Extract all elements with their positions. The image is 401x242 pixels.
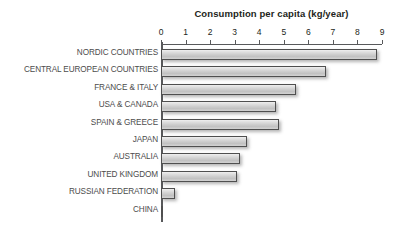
x-tick-label: 7 [326,27,340,37]
category-label: CHINA [0,205,158,214]
category-label: RUSSIAN FEDERATION [0,187,158,196]
x-tick-mark [357,40,358,44]
plot-area: 0123456789 [161,44,382,224]
category-axis-labels: NORDIC COUNTRIESCENTRAL EUROPEAN COUNTRI… [0,44,158,224]
bar[interactable] [161,171,237,182]
x-tick-mark [308,40,309,44]
bar-row[interactable] [161,82,382,99]
bar-row[interactable] [161,99,382,116]
bar[interactable] [161,66,326,77]
bar[interactable] [161,136,247,147]
x-tick-mark [382,40,383,44]
bar[interactable] [161,119,279,130]
x-tick-label: 5 [277,27,291,37]
bar-row[interactable] [161,64,382,81]
bar[interactable] [161,188,175,199]
bar-row[interactable] [161,186,382,203]
bar[interactable] [161,101,276,112]
chart-title: Consumption per capita (kg/year) [161,8,382,19]
x-axis-line [161,44,382,45]
x-tick-label: 8 [350,27,364,37]
category-label: SPAIN & GREECE [0,118,158,127]
x-tick-label: 2 [203,27,217,37]
x-tick-mark [161,40,162,44]
x-tick-label: 0 [154,27,168,37]
bar[interactable] [161,49,377,60]
bar-row[interactable] [161,134,382,151]
category-label: USA & CANADA [0,100,158,109]
bar-row[interactable] [161,204,382,221]
x-tick-mark [235,40,236,44]
x-tick-mark [284,40,285,44]
x-tick-mark [259,40,260,44]
bar-row[interactable] [161,47,382,64]
x-tick-mark [210,40,211,44]
x-tick-label: 9 [375,27,389,37]
bar[interactable] [161,153,240,164]
bar-row[interactable] [161,117,382,134]
bar[interactable] [161,206,163,217]
category-label: NORDIC COUNTRIES [0,48,158,57]
bar-row[interactable] [161,169,382,186]
bar-row[interactable] [161,151,382,168]
category-label: UNITED KINGDOM [0,170,158,179]
x-tick-mark [333,40,334,44]
x-tick-label: 6 [301,27,315,37]
bar[interactable] [161,84,296,95]
category-label: AUSTRALIA [0,152,158,161]
bar-chart-figure: Consumption per capita (kg/year) NORDIC … [0,0,401,242]
x-tick-mark [186,40,187,44]
x-tick-label: 1 [179,27,193,37]
x-tick-label: 3 [228,27,242,37]
x-tick-label: 4 [252,27,266,37]
category-label: FRANCE & ITALY [0,83,158,92]
category-label: CENTRAL EUROPEAN COUNTRIES [0,65,158,74]
category-label: JAPAN [0,135,158,144]
